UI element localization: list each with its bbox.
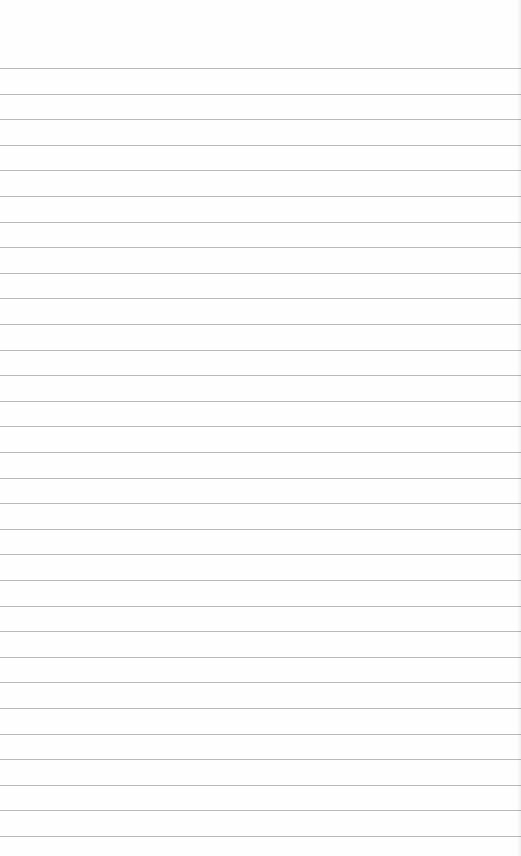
ruled-line (0, 68, 521, 69)
ruled-line (0, 657, 521, 658)
ruled-line (0, 375, 521, 376)
ruled-line (0, 836, 521, 837)
ruled-line (0, 222, 521, 223)
lined-paper-sheet (0, 0, 521, 856)
paper-edge-shadow (517, 0, 521, 856)
ruled-line (0, 170, 521, 171)
ruled-line (0, 94, 521, 95)
ruled-line (0, 426, 521, 427)
ruled-line (0, 682, 521, 683)
ruled-line (0, 247, 521, 248)
ruled-line (0, 401, 521, 402)
ruled-line (0, 606, 521, 607)
ruled-line (0, 273, 521, 274)
ruled-line (0, 631, 521, 632)
ruled-line (0, 734, 521, 735)
ruled-line (0, 119, 521, 120)
ruled-line (0, 503, 521, 504)
ruled-line (0, 324, 521, 325)
ruled-line (0, 580, 521, 581)
ruled-line (0, 785, 521, 786)
ruled-line (0, 529, 521, 530)
ruled-line (0, 708, 521, 709)
ruled-line (0, 298, 521, 299)
ruled-line (0, 350, 521, 351)
ruled-line (0, 810, 521, 811)
ruled-line (0, 759, 521, 760)
ruled-line (0, 452, 521, 453)
ruled-line (0, 554, 521, 555)
ruled-line (0, 196, 521, 197)
ruled-line (0, 478, 521, 479)
ruled-line (0, 145, 521, 146)
